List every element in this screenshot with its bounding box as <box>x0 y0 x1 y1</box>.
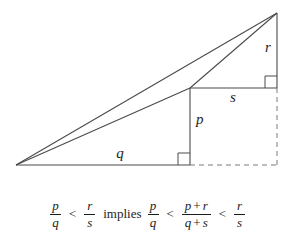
mediant-den-plus: + <box>191 215 202 230</box>
mediant-inequality-formula: p q < r s implies p q < p+r q+s < r s <box>0 186 295 242</box>
fraction-mediant: p+r q+s <box>182 199 211 229</box>
fraction-numerator: r <box>235 199 244 214</box>
relation-less-than-1: < <box>69 206 76 222</box>
fraction-denominator: s <box>235 215 244 230</box>
fraction-numerator: p <box>148 199 159 214</box>
fraction-r-over-s-2: r s <box>234 199 245 229</box>
mediant-num-plus: + <box>191 198 202 213</box>
mediant-numerator: p+r <box>182 199 211 214</box>
fraction-denominator: q <box>148 215 159 230</box>
fraction-numerator: r <box>85 199 94 214</box>
fraction-denominator: q <box>50 215 61 230</box>
relation-less-than-3: < <box>219 206 226 222</box>
fraction-r-over-s: r s <box>84 199 95 229</box>
diagonal-origin-to-junction <box>16 88 190 165</box>
right-angle-marker-upper <box>265 76 277 88</box>
diagonal-junction-to-apex <box>190 13 277 88</box>
figure-root: q p s r p q < r s implies p q < p+r q+s <box>0 0 295 242</box>
fraction-denominator: s <box>85 215 94 230</box>
fraction-numerator: p <box>50 199 61 214</box>
fraction-p-over-q-2: p q <box>148 199 159 229</box>
label-s: s <box>230 89 236 105</box>
label-p: p <box>195 111 204 127</box>
fraction-p-over-q: p q <box>50 199 61 229</box>
implies-word: implies <box>103 206 141 222</box>
right-angle-marker-base <box>178 153 190 165</box>
mediant-den-right: s <box>203 215 208 230</box>
geometry-diagram: q p s r <box>0 0 295 180</box>
relation-less-than-2: < <box>167 206 174 222</box>
label-q: q <box>116 145 124 161</box>
diagonal-mediant-origin-to-apex <box>16 13 277 165</box>
label-r: r <box>265 39 271 55</box>
mediant-num-right: r <box>203 198 208 213</box>
mediant-denominator: q+s <box>182 215 211 230</box>
